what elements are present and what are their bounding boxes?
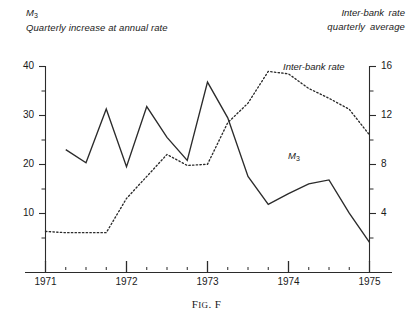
- left-tick-40: 40: [8, 60, 34, 71]
- caption-label: . F: [209, 298, 222, 310]
- chart-plot: [0, 0, 413, 321]
- m3-label-text: M: [288, 150, 296, 161]
- m3-line: [66, 82, 370, 242]
- m3-series-label: M3: [288, 150, 300, 162]
- right-tick-8: 8: [381, 158, 407, 169]
- m3-label-subscript: 3: [296, 155, 300, 162]
- x-tick-1975: 1975: [348, 276, 392, 287]
- right-tick-4: 4: [381, 207, 407, 218]
- left-tick-10: 10: [8, 207, 34, 218]
- interbank-rate-line: [46, 71, 370, 232]
- left-tick-20: 20: [8, 158, 34, 169]
- x-tick-1973: 1973: [186, 276, 230, 287]
- right-tick-16: 16: [381, 60, 407, 71]
- x-axis-major-ticks: [46, 261, 370, 272]
- figure-container: M3 Quarterly increase at annual rate Int…: [0, 0, 413, 321]
- right-tick-12: 12: [381, 109, 407, 120]
- x-tick-1972: 1972: [105, 276, 149, 287]
- x-tick-1971: 1971: [24, 276, 68, 287]
- figure-caption: FIG. F: [0, 298, 413, 310]
- x-tick-1974: 1974: [267, 276, 311, 287]
- left-tick-30: 30: [8, 109, 34, 120]
- interbank-series-label: Inter-bank rate: [283, 61, 345, 72]
- caption-smallcaps: IG: [198, 300, 208, 310]
